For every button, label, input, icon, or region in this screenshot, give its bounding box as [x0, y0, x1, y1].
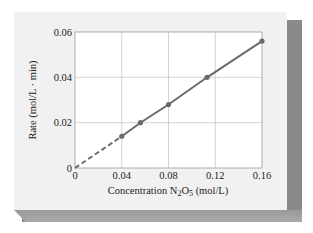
y-axis-label: Rate (mol/L · min) — [27, 60, 39, 140]
data-point-marker — [138, 120, 143, 125]
data-point-marker — [166, 102, 171, 107]
x-tick-label: 0.08 — [159, 170, 177, 181]
chart: 00.040.080.120.16 00.020.040.06 Concentr… — [0, 0, 313, 233]
x-tick-label: 0.12 — [206, 170, 224, 181]
x-tick-label: 0 — [72, 170, 77, 181]
y-tick-label: 0.06 — [54, 27, 72, 38]
data-point-marker — [259, 38, 264, 43]
x-tick-label: 0.16 — [253, 170, 271, 181]
x-tick-labels: 00.040.080.120.16 — [72, 170, 271, 181]
y-tick-label: 0.02 — [54, 117, 72, 128]
x-tick-label: 0.04 — [113, 170, 132, 181]
y-tick-labels: 00.020.040.06 — [54, 27, 73, 174]
y-tick-label: 0 — [67, 163, 72, 174]
data-point-marker — [204, 75, 209, 80]
data-point-marker — [119, 134, 124, 139]
y-tick-label: 0.04 — [54, 72, 73, 83]
x-axis-label: Concentration N2O5 (mol/L) — [108, 185, 229, 198]
